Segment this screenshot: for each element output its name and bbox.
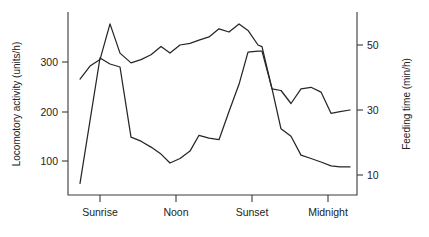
chart-figure: 300 200 100 50 30 10 Sunrise Noon Sunset… xyxy=(0,0,429,237)
left-tick-label-200: 200 xyxy=(40,106,58,118)
x-tick-label-sunrise: Sunrise xyxy=(82,206,118,218)
right-tick-label-50: 50 xyxy=(367,39,379,51)
x-tick-label-noon: Noon xyxy=(163,206,188,218)
left-tick-label-300: 300 xyxy=(40,56,58,68)
right-tick-label-10: 10 xyxy=(367,169,379,181)
x-tick-label-sunset: Sunset xyxy=(236,206,269,218)
chart-background xyxy=(0,0,429,237)
y-axis-title: Locomotory activity (units/h) xyxy=(11,42,22,167)
x-tick-label-midnight: Midnight xyxy=(308,206,348,218)
chart-svg: 300 200 100 50 30 10 Sunrise Noon Sunset… xyxy=(0,0,429,237)
right-tick-label-30: 30 xyxy=(367,104,379,116)
y2-axis-title: Feeding time (min/h) xyxy=(401,58,412,150)
left-tick-label-100: 100 xyxy=(40,155,58,167)
